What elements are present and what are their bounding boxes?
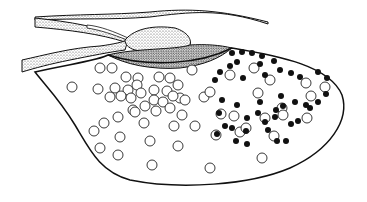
open-circle-cell (302, 113, 312, 123)
filled-dot-cell (234, 59, 240, 65)
open-circle-cell (301, 78, 311, 88)
filled-dot-cell (229, 125, 235, 131)
filled-dot-cell (262, 72, 268, 78)
filled-dot-cell (283, 138, 289, 144)
filled-dot-cell (234, 102, 240, 108)
open-circle-cell (139, 118, 149, 128)
open-circle-cell (187, 65, 197, 75)
filled-dot-cell (233, 138, 239, 144)
filled-dot-cell (257, 99, 263, 105)
open-circle-cell (93, 84, 103, 94)
open-circle-cell (136, 88, 146, 98)
filled-dot-cell (244, 115, 250, 121)
filled-dot-cell (273, 107, 279, 113)
open-circle-cell (116, 91, 126, 101)
filled-dot-cell (274, 138, 280, 144)
open-circle-cell (67, 82, 77, 92)
filled-dot-cell (277, 67, 283, 73)
open-circle-cell (154, 72, 164, 82)
filled-dot-cell (227, 63, 233, 69)
filled-dot-cell (244, 141, 250, 147)
filled-dot-cell (255, 110, 261, 116)
filled-dot-cell (212, 77, 218, 83)
open-circle-cell (126, 93, 136, 103)
open-circle-cell (130, 107, 140, 117)
dark-crescent (108, 45, 232, 69)
open-circle-cell (89, 126, 99, 136)
open-circle-cell (257, 153, 267, 163)
filled-dot-cell (271, 58, 277, 64)
filled-dot-cell (292, 99, 298, 105)
filled-dot-cell (217, 69, 223, 75)
open-circle-cell (113, 112, 123, 122)
open-circle-cell (225, 70, 235, 80)
open-circle-cell (105, 92, 115, 102)
open-circle-cell (145, 136, 155, 146)
filled-dot-cell (240, 75, 246, 81)
open-circle-cell (165, 103, 175, 113)
open-circle-cell (99, 118, 109, 128)
open-circle-cell (169, 121, 179, 131)
filled-dot-cell (324, 75, 330, 81)
filled-dot-cell (222, 123, 228, 129)
filled-dot-cell (265, 127, 271, 133)
open-circle-cell (113, 150, 123, 160)
open-circle-cell (151, 106, 161, 116)
upper-duct (35, 18, 128, 42)
filled-dot-cell (315, 99, 321, 105)
open-circle-cell (205, 163, 215, 173)
filled-dot-cell (280, 103, 286, 109)
filled-dot-cell (249, 50, 255, 56)
filled-dot-cell (295, 118, 301, 124)
filled-dot-cell (288, 70, 294, 76)
open-circle-cell (177, 110, 187, 120)
filled-dot-cell (214, 131, 220, 137)
filled-dot-cell (323, 91, 329, 97)
open-circle-cell (253, 88, 263, 98)
filled-dot-cell (243, 128, 249, 134)
filled-dot-cell (259, 53, 265, 59)
filled-dot-cell (262, 119, 268, 125)
open-circle-cell (190, 121, 200, 131)
open-circle-cell (107, 63, 117, 73)
anatomical-diagram (0, 0, 367, 202)
open-circle-cell (168, 91, 178, 101)
open-circle-cell (95, 63, 105, 73)
filled-dot-cell (288, 121, 294, 127)
open-circle-cell (229, 111, 239, 121)
open-circle-cell (149, 85, 159, 95)
open-circles-group (67, 63, 330, 173)
open-circle-cell (306, 91, 316, 101)
open-circle-cell (165, 73, 175, 83)
open-circle-cell (147, 160, 157, 170)
filled-dot-cell (219, 97, 225, 103)
filled-dot-cell (239, 49, 245, 55)
open-circle-cell (180, 95, 190, 105)
top-membrane (35, 10, 268, 24)
filled-dot-cell (297, 74, 303, 80)
filled-dot-cell (257, 61, 263, 67)
open-circle-cell (320, 82, 330, 92)
open-circle-cell (173, 80, 183, 90)
filled-dot-cell (272, 114, 278, 120)
open-circle-cell (278, 110, 288, 120)
open-circle-cell (140, 101, 150, 111)
open-circle-cell (95, 143, 105, 153)
filled-dot-cell (315, 69, 321, 75)
filled-dot-cell (303, 102, 309, 108)
open-circle-cell (205, 87, 215, 97)
filled-dot-cell (278, 93, 284, 99)
open-circle-cell (121, 72, 131, 82)
open-circle-cell (115, 132, 125, 142)
open-circle-cell (173, 141, 183, 151)
filled-dot-cell (229, 50, 235, 56)
open-circle-cell (149, 95, 159, 105)
filled-dot-cell (216, 110, 222, 116)
